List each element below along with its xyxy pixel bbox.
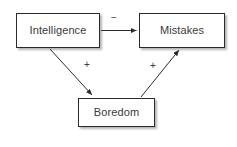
diagram-canvas: Intelligence Mistakes Boredom − + + — [0, 0, 237, 147]
node-boredom-label: Boredom — [94, 107, 139, 118]
node-intelligence-label: Intelligence — [30, 25, 87, 36]
node-mistakes[interactable]: Mistakes — [139, 13, 225, 48]
edge-intelligence-to-boredom — [50, 49, 92, 95]
edge-label-intelligence-to-boredom: + — [79, 60, 95, 70]
node-intelligence[interactable]: Intelligence — [16, 13, 100, 48]
node-boredom[interactable]: Boredom — [78, 98, 155, 127]
edge-label-boredom-to-mistakes: + — [145, 61, 161, 71]
node-mistakes-label: Mistakes — [160, 25, 204, 36]
edge-boredom-to-mistakes — [141, 50, 179, 97]
edge-label-intelligence-to-mistakes: − — [105, 13, 123, 23]
